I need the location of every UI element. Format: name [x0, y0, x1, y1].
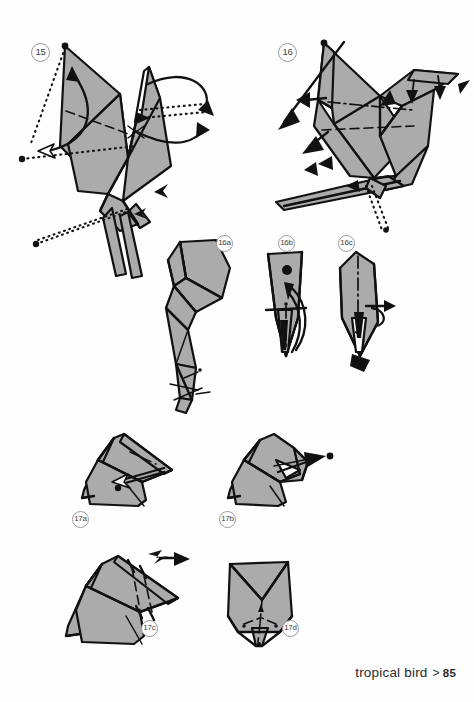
- step-badge-16: 16: [278, 43, 297, 62]
- diagram-step-17b: [216, 430, 341, 508]
- step-badge-16a: 16a: [216, 235, 233, 252]
- page-footer: tropical bird>85: [0, 665, 456, 680]
- page-number: 85: [443, 667, 456, 679]
- step-badge-16b: 16b: [278, 235, 295, 252]
- step-badge-16c: 16c: [338, 235, 355, 252]
- diagram-step-16: [262, 28, 474, 240]
- diagram-step-16a: [152, 238, 242, 413]
- step-badge-17d: 17d: [282, 620, 299, 637]
- diagram-step-17a: [68, 430, 188, 508]
- step-badge-15: 15: [31, 43, 50, 62]
- step-badge-17a: 17a: [72, 511, 89, 528]
- diagram-step-16c: [326, 248, 396, 374]
- instruction-page: 15: [0, 0, 474, 702]
- step-badge-17c: 17c: [141, 620, 158, 637]
- chapter-title: tropical bird: [355, 665, 427, 680]
- footer-separator: >: [433, 666, 440, 680]
- diagram-step-16b: [258, 248, 320, 368]
- step-badge-17b: 17b: [219, 511, 236, 528]
- diagram-step-17c: [56, 550, 192, 646]
